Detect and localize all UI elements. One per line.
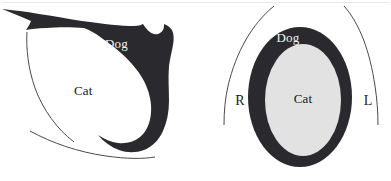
right-panel: Dog Cat R L [224, 6, 378, 167]
left-panel: Dog Cat [2, 9, 174, 158]
diagram-canvas: Dog Cat Dog Cat R L [0, 0, 391, 181]
left-cat-upper-arc [27, 32, 74, 142]
orientation-label-left: L [364, 93, 373, 108]
left-dog-region [2, 9, 174, 152]
left-cat-label: Cat [74, 83, 93, 98]
orientation-label-right: R [235, 93, 245, 108]
right-cat-label: Cat [294, 91, 313, 106]
left-dog-label: Dog [105, 36, 128, 51]
figure-container: Dog Cat Dog Cat R L [0, 0, 391, 181]
right-dog-label: Dog [277, 30, 300, 45]
